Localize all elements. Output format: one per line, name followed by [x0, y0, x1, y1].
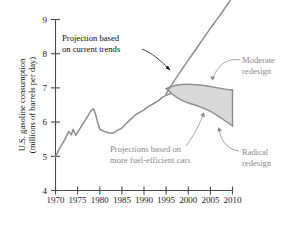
x-tick-label-1980: 1980 [91, 195, 110, 205]
chart-container: 9 8 7 6 5 4 1970 1975 1980 1985 1990 199… [0, 0, 292, 225]
y-axis-title-line1: U.S. gasoline consumption [17, 58, 27, 151]
annotation-moderate-line1: Moderate [242, 55, 275, 65]
y-tick-labels: 9 8 7 6 5 4 [43, 15, 48, 196]
x-tick-label-2005: 2005 [201, 195, 220, 205]
annotation-radical-leader [219, 130, 239, 151]
gasoline-consumption-chart: 9 8 7 6 5 4 1970 1975 1980 1985 1990 199… [0, 0, 292, 225]
x-tick-labels: 1970 1975 1980 1985 1990 1995 2000 2005 … [47, 195, 243, 205]
annotation-moderate-leader [213, 60, 240, 78]
x-tick-label-1990: 1990 [135, 195, 154, 205]
annotation-radical-line1: Radical [242, 147, 269, 157]
y-axis-title-line2: (millions of barrels per day) [27, 57, 37, 154]
annotation-fuel-efficient: Projections based on more fuel-efficient… [110, 112, 205, 165]
annotation-current-trends: Projection based on current trends [62, 33, 170, 71]
annotation-current-trends-line2: on current trends [62, 44, 121, 54]
x-tick-label-2000: 2000 [179, 195, 198, 205]
projection-current-trends-line [166, 0, 232, 94]
annotation-moderate-redesign: Moderate redesign [210, 55, 275, 81]
y-tick-label-5: 5 [43, 152, 48, 162]
x-tick-label-1985: 1985 [113, 195, 132, 205]
y-axis-title: U.S. gasoline consumption (millions of b… [17, 57, 37, 154]
annotation-moderate-line2: redesign [242, 66, 272, 76]
y-tick-label-9: 9 [43, 15, 48, 25]
x-tick-label-1995: 1995 [157, 195, 176, 205]
annotation-current-trends-leader [142, 49, 169, 69]
annotation-radical-redesign: Radical redesign [217, 127, 272, 168]
y-tick-label-7: 7 [43, 83, 48, 93]
annotation-radical-line2: redesign [242, 158, 272, 168]
y-tick-label-6: 6 [43, 117, 48, 127]
y-tick-label-8: 8 [43, 49, 48, 59]
annotation-current-trends-line1: Projection based [62, 33, 120, 43]
annotation-radical-arrowhead [217, 127, 222, 131]
annotation-fuel-efficient-leader [186, 115, 203, 146]
x-tick-label-1975: 1975 [69, 195, 88, 205]
x-tick-label-2010: 2010 [224, 195, 243, 205]
annotation-fuel-efficient-line2: more fuel-efficient cars [110, 155, 191, 165]
annotation-moderate-arrowhead [210, 76, 215, 81]
annotation-fuel-efficient-line1: Projections based on [110, 144, 182, 154]
x-tick-label-1970: 1970 [47, 195, 66, 205]
